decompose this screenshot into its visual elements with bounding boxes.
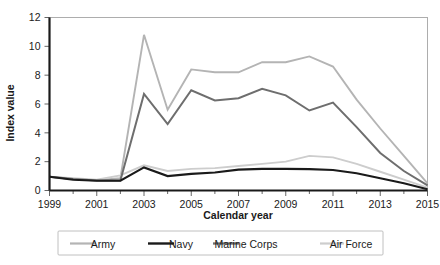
x-tick-label: 2001 (85, 198, 109, 210)
x-tick-label: 2013 (369, 198, 393, 210)
x-tick-label: 2011 (322, 198, 345, 210)
series-line-army (50, 35, 428, 183)
series-line-air-force (50, 156, 428, 188)
x-tick-label: 2015 (416, 198, 440, 210)
x-tick-label: 2005 (180, 198, 204, 210)
legend: ArmyNavyMarine CorpsAir Force (58, 231, 383, 255)
y-tick-label: 10 (29, 40, 41, 52)
y-tick-label: 2 (35, 155, 41, 167)
series-lines-group (50, 35, 428, 190)
x-tick-label: 2003 (132, 198, 156, 210)
y-tick-label: 8 (35, 69, 41, 81)
x-axis-title: Calendar year (203, 209, 272, 221)
y-tick-label: 0 (35, 184, 41, 196)
x-axis-tick-labels: 199920012003200520072009201120132015 (38, 198, 440, 210)
legend-label-marine-corps: Marine Corps (214, 238, 277, 250)
series-line-marine-corps (50, 89, 428, 186)
plot-area-border (50, 18, 428, 191)
y-tick-label: 12 (29, 11, 41, 23)
x-tick-label: 2009 (274, 198, 298, 210)
legend-label-air-force: Air Force (330, 238, 373, 250)
chart-svg: 024681012 199920012003200520072009201120… (0, 0, 440, 265)
y-axis-tick-labels: 024681012 (29, 11, 41, 196)
x-tick-label: 2007 (227, 198, 251, 210)
y-axis-title: Index value (4, 84, 16, 141)
axis-lines-group (50, 18, 428, 191)
chart-screenshot: 024681012 199920012003200520072009201120… (0, 0, 440, 265)
y-tick-label: 6 (35, 98, 41, 110)
legend-label-army: Army (91, 238, 116, 250)
x-tick-label: 1999 (38, 198, 62, 210)
y-tick-label: 4 (35, 127, 41, 139)
line-chart-figure: 024681012 199920012003200520072009201120… (0, 0, 440, 265)
legend-label-navy: Navy (169, 238, 194, 250)
plot-frame-group (50, 18, 428, 191)
